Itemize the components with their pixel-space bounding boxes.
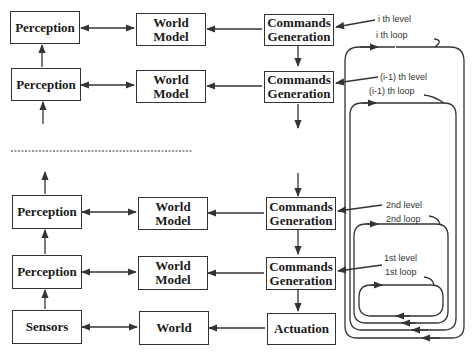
loop-label-1: 1st loop bbox=[385, 267, 417, 277]
level-label-1: 1st level bbox=[384, 253, 417, 263]
sensors-box: Sensors bbox=[12, 310, 82, 344]
world-model-line2: Model bbox=[155, 214, 190, 228]
perception-box-level-i-1: Perception bbox=[11, 68, 81, 101]
connector-lines bbox=[0, 0, 473, 358]
world-model-box-level-i-1: World Model bbox=[136, 70, 206, 103]
hierarchical-control-diagram: Perception World Model Commands Generati… bbox=[0, 0, 473, 358]
level-label-i-1: (i-1) th level bbox=[380, 72, 427, 82]
world-model-box-level-2: World Model bbox=[138, 197, 208, 230]
world-model-line1: World bbox=[155, 259, 190, 273]
commands-line1: Commands bbox=[269, 200, 333, 214]
sensors-label: Sensors bbox=[26, 320, 69, 334]
perception-box-level-1: Perception bbox=[12, 255, 82, 289]
world-box: World bbox=[139, 311, 209, 345]
commands-generation-box-level-1: Commands Generation bbox=[266, 257, 336, 290]
level-label-2: 2nd level bbox=[386, 200, 422, 210]
commands-generation-box-level-i: Commands Generation bbox=[264, 14, 334, 46]
world-model-box-level-1: World Model bbox=[138, 256, 208, 290]
world-model-line1: World bbox=[153, 16, 188, 30]
commands-generation-box-level-2: Commands Generation bbox=[266, 197, 336, 230]
commands-line1: Commands bbox=[269, 260, 333, 274]
actuation-label: Actuation bbox=[274, 322, 329, 336]
level-label-i: i th level bbox=[378, 14, 411, 24]
world-label: World bbox=[156, 321, 191, 335]
world-model-line2: Model bbox=[153, 30, 188, 44]
loop-label-i-1: (i-1) th loop bbox=[369, 86, 415, 96]
commands-generation-box-level-i-1: Commands Generation bbox=[264, 71, 334, 103]
commands-line2: Generation bbox=[270, 274, 333, 288]
world-model-box-level-i: World Model bbox=[136, 13, 206, 46]
loop-label-2: 2nd loop bbox=[386, 214, 421, 224]
commands-line2: Generation bbox=[268, 30, 331, 44]
perception-label: Perception bbox=[16, 78, 76, 92]
actuation-box: Actuation bbox=[267, 313, 336, 345]
world-model-line2: Model bbox=[153, 87, 188, 101]
loop-label-i: i th loop bbox=[376, 30, 408, 40]
commands-line2: Generation bbox=[270, 214, 333, 228]
commands-line1: Commands bbox=[267, 16, 331, 30]
perception-label: Perception bbox=[17, 265, 77, 279]
commands-line1: Commands bbox=[267, 73, 331, 87]
perception-box-level-i: Perception bbox=[10, 11, 80, 44]
perception-box-level-2: Perception bbox=[12, 195, 82, 229]
commands-line2: Generation bbox=[268, 87, 331, 101]
world-model-line1: World bbox=[155, 200, 190, 214]
world-model-line1: World bbox=[153, 73, 188, 87]
perception-label: Perception bbox=[15, 21, 75, 35]
world-model-line2: Model bbox=[155, 273, 190, 287]
perception-label: Perception bbox=[17, 205, 77, 219]
